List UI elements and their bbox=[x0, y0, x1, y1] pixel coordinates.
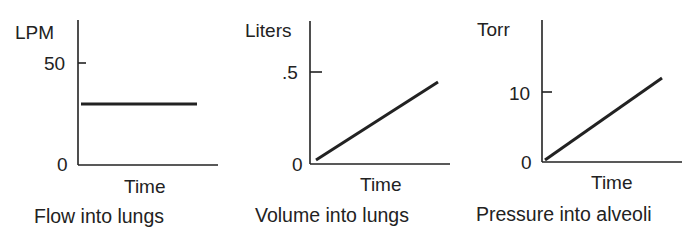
pressure-series-line bbox=[545, 78, 662, 160]
volume-series-line bbox=[316, 82, 438, 160]
pressure-caption: Pressure into alveoli bbox=[476, 205, 652, 225]
volume-caption: Volume into lungs bbox=[255, 206, 409, 226]
flow-x-label: Time bbox=[124, 177, 166, 196]
volume-x-label: Time bbox=[360, 175, 402, 194]
pressure-x-label: Time bbox=[591, 173, 633, 192]
pressure-chart bbox=[542, 20, 682, 162]
pressure-tick-label-top: 10 bbox=[509, 84, 530, 103]
volume-y-label: Liters bbox=[245, 21, 291, 40]
flow-chart bbox=[78, 20, 218, 165]
pressure-tick-label-zero: 0 bbox=[521, 153, 532, 172]
flow-y-label: LPM bbox=[15, 23, 54, 42]
pressure-y-label: Torr bbox=[477, 20, 510, 39]
flow-tick-label-top: 50 bbox=[44, 54, 65, 73]
flow-caption: Flow into lungs bbox=[34, 207, 164, 227]
volume-tick-label-top: .5 bbox=[282, 63, 298, 82]
volume-tick-label-zero: 0 bbox=[292, 155, 303, 174]
flow-tick-label-zero: 0 bbox=[57, 155, 68, 174]
volume-chart bbox=[310, 21, 450, 164]
